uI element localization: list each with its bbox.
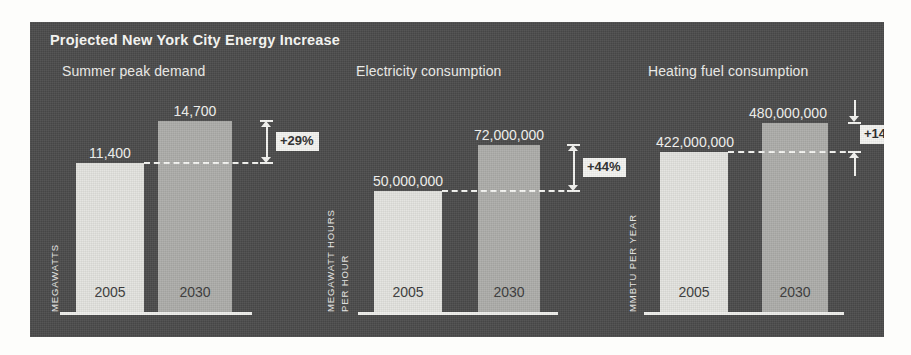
energy-increase-figure: Projected New York City Energy Increase … (0, 0, 911, 355)
arrow-shaft (266, 124, 268, 160)
bar-year-summer-2030: 2030 (158, 284, 232, 300)
bar-year-heating-2030: 2030 (762, 284, 828, 300)
arrow-shaft (854, 157, 856, 176)
bar-group-electricity-consumption: Electricity consumption MEGAWATT HOURS P… (312, 22, 602, 337)
chart-panel: Projected New York City Energy Increase … (30, 22, 884, 337)
bar-value-summer-2030: 14,700 (148, 103, 242, 119)
comparison-dash-line-heating (728, 151, 856, 153)
change-arrow-heating-top (849, 100, 860, 122)
span-cap-top-heating (848, 122, 861, 124)
bar-year-electricity-2005: 2005 (374, 284, 442, 300)
axis-label-mmbtu-per-year: MMBTU PER YEAR (627, 214, 638, 312)
bar-value-heating-2005: 422,000,000 (634, 134, 756, 150)
bar-value-electricity-2030: 72,000,000 (449, 127, 569, 143)
arrow-shaft (573, 148, 575, 188)
axis-label-line-2: PER HOUR (339, 255, 350, 312)
bar-value-summer-2005: 11,400 (66, 145, 154, 161)
change-callout-heating: +14% (860, 125, 884, 144)
bar-group-heating-fuel-consumption: Heating fuel consumption MMBTU PER YEAR … (602, 22, 884, 337)
baseline-axis-electricity (358, 312, 558, 315)
comparison-dash-line-summer (144, 162, 268, 164)
axis-label-per-hour: PER HOUR (339, 255, 350, 312)
group-title-summer-peak-demand: Summer peak demand (62, 63, 205, 79)
arrow-head-down-icon (849, 116, 859, 122)
change-arrow-electricity (568, 145, 579, 191)
page-title: Projected New York City Energy Increase (50, 32, 340, 48)
arrow-head-down-icon (568, 185, 578, 191)
baseline-axis-heating (644, 312, 844, 315)
bar-year-summer-2005: 2005 (76, 284, 144, 300)
change-arrow-summer (261, 121, 272, 163)
baseline-axis-summer (60, 312, 252, 315)
bar-value-electricity-2005: 50,000,000 (348, 173, 468, 189)
axis-label-megawatt-hours: MEGAWATT HOURS (325, 209, 336, 312)
arrow-shaft (854, 100, 856, 117)
bar-year-heating-2005: 2005 (660, 284, 728, 300)
axis-label-line-1: MEGAWATT HOURS (325, 209, 336, 312)
arrow-head-down-icon (261, 157, 271, 163)
bar-value-heating-2030: 480,000,000 (727, 105, 849, 121)
bar-group-summer-peak-demand: Summer peak demand MEGAWATTS 11,400 2005… (44, 22, 324, 337)
group-title-electricity-consumption: Electricity consumption (356, 63, 501, 79)
comparison-dash-line-electricity (442, 190, 574, 192)
axis-label-megawatts: MEGAWATTS (49, 244, 60, 312)
group-title-heating-fuel-consumption: Heating fuel consumption (648, 63, 808, 79)
change-arrow-heating-bottom (849, 152, 860, 176)
bar-year-electricity-2030: 2030 (478, 284, 540, 300)
